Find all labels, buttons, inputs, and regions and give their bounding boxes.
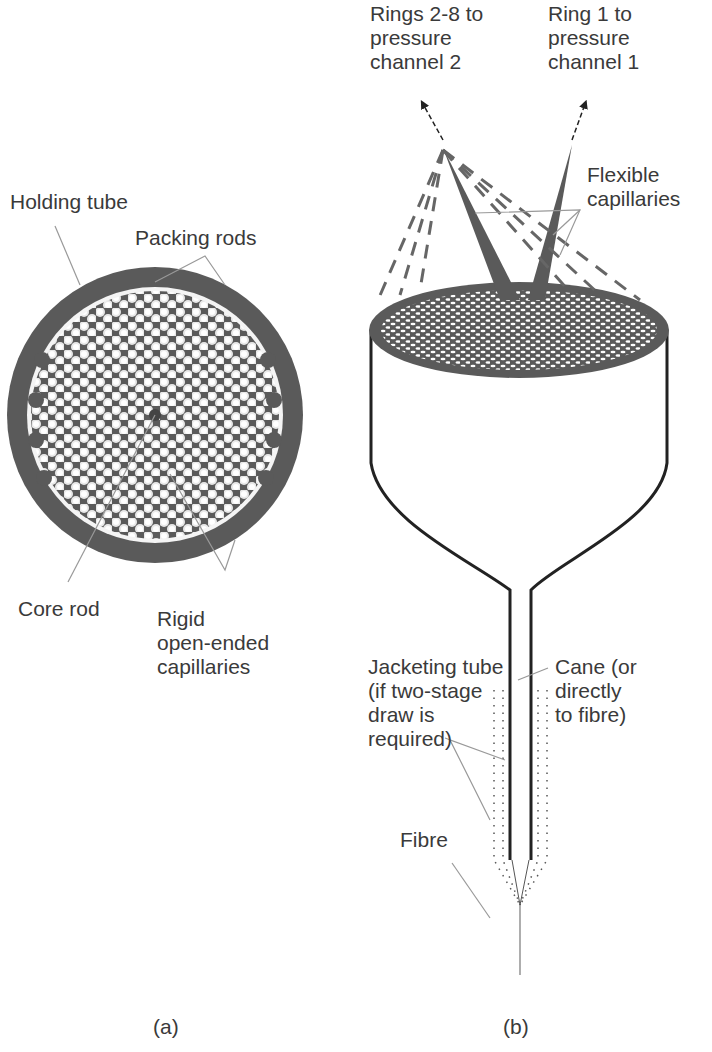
arrow-channel-2 [423, 104, 443, 140]
label-rigid-capillaries: Rigid open-ended capillaries [157, 607, 269, 679]
label-rings-2-8: Rings 2-8 to pressure channel 2 [370, 2, 483, 74]
caption-b: (b) [503, 1015, 529, 1039]
label-core-rod: Core rod [18, 597, 100, 621]
caption-a: (a) [153, 1015, 179, 1039]
label-jacketing-tube: Jacketing tube (if two-stage draw is req… [368, 655, 503, 751]
label-ring-1: Ring 1 to pressure channel 1 [548, 2, 639, 74]
label-packing-rods: Packing rods [135, 226, 256, 250]
preform-outline [371, 330, 667, 860]
diagram-canvas [0, 0, 712, 1052]
arrow-channel-1 [572, 104, 585, 140]
label-flexible-capillaries: Flexible capillaries [587, 163, 680, 211]
label-holding-tube: Holding tube [10, 190, 128, 214]
label-cane: Cane (or directly to fibre) [555, 655, 637, 727]
label-fibre: Fibre [400, 828, 448, 852]
